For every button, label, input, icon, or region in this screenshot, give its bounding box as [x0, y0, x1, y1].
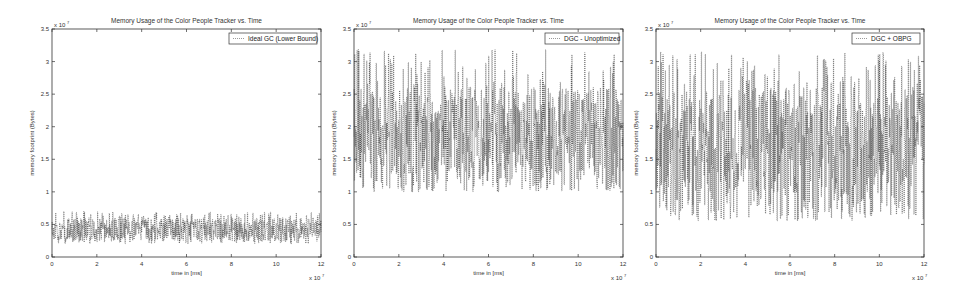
- svg-text:7: 7: [925, 273, 928, 278]
- x-tick-label: 12: [921, 261, 928, 267]
- data-series-line: [656, 52, 924, 221]
- x-tick-label: 10: [876, 261, 883, 267]
- y-axis-multiplier: x 10: [658, 22, 670, 28]
- x-axis-label: time in [ms]: [775, 270, 806, 276]
- y-tick-label: 1.5: [645, 156, 654, 162]
- y-tick-label: 0: [650, 254, 654, 260]
- x-axis-multiplier: x 10: [912, 275, 924, 281]
- chart-title: Memory Usage of the Color People Tracker…: [714, 17, 865, 25]
- y-tick-label: 3: [650, 59, 654, 65]
- svg-text:7: 7: [671, 20, 674, 25]
- x-tick-label: 4: [744, 261, 748, 267]
- chart-dgc-obpg: 02468101200.511.522.533.5Memory Usage of…: [0, 0, 962, 289]
- legend-label: DGC + OBPG: [871, 35, 912, 42]
- y-tick-label: 0.5: [645, 221, 654, 227]
- x-tick-label: 8: [833, 261, 837, 267]
- x-tick-label: 2: [699, 261, 703, 267]
- y-tick-label: 1: [650, 189, 654, 195]
- y-axis-label: memory footprint (Bytes): [633, 110, 639, 176]
- y-tick-label: 2: [650, 124, 654, 130]
- y-tick-label: 2.5: [645, 91, 654, 97]
- x-tick-label: 6: [788, 261, 792, 267]
- chart-svg: 02468101200.511.522.533.5Memory Usage of…: [0, 0, 962, 289]
- x-tick-label: 0: [654, 261, 658, 267]
- y-tick-label: 3.5: [645, 26, 654, 32]
- legend: DGC + OBPG: [852, 33, 920, 44]
